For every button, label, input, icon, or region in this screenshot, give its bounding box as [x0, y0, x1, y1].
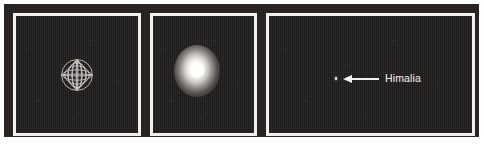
- himalia-point-source: [335, 77, 337, 80]
- astronomy-figure: Himalia: [0, 0, 484, 144]
- globe-icon: [59, 57, 95, 93]
- faint-moon-panel: Himalia: [266, 13, 475, 136]
- arrow-shaft: [351, 78, 379, 80]
- himalia-annotation: Himalia: [343, 72, 421, 85]
- figure-plate: Himalia: [4, 4, 479, 137]
- saturated-source-panel: [150, 13, 257, 136]
- wireframe-globe-panel: [13, 13, 141, 136]
- bright-core: [190, 62, 205, 78]
- himalia-label: Himalia: [385, 73, 421, 84]
